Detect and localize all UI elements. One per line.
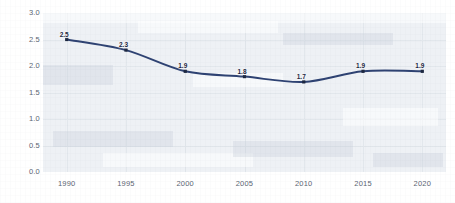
data-point-value-label: 1.8: [238, 69, 247, 76]
plot-area: [43, 13, 446, 172]
x-axis-tick-label: 1995: [104, 180, 148, 188]
data-point-value-label: 1.9: [415, 63, 424, 70]
data-point-marker: [65, 38, 68, 41]
x-axis-tick-label: 2020: [400, 180, 444, 188]
data-point-value-label: 1.7: [297, 74, 306, 81]
data-point-marker: [361, 70, 364, 73]
data-point-marker: [243, 75, 246, 78]
data-point-value-label: 2.3: [119, 42, 128, 49]
line-chart-figure: 0.00.51.01.52.02.53.0 199019952000200520…: [0, 0, 455, 203]
data-point-value-label: 1.9: [178, 63, 187, 70]
x-axis-tick-label: 2005: [223, 180, 267, 188]
data-point-marker: [302, 80, 305, 83]
x-axis-tick-label: 2000: [163, 180, 207, 188]
data-point-marker: [124, 49, 127, 52]
data-point-value-label: 2.5: [60, 32, 69, 39]
x-axis-tick-label: 1990: [45, 180, 89, 188]
x-axis-tick-label: 2015: [341, 180, 385, 188]
data-point-marker: [184, 70, 187, 73]
data-point-marker: [421, 70, 424, 73]
x-axis-tick-label: 2010: [282, 180, 326, 188]
data-series-line: [43, 13, 446, 172]
data-point-value-label: 1.9: [356, 63, 365, 70]
